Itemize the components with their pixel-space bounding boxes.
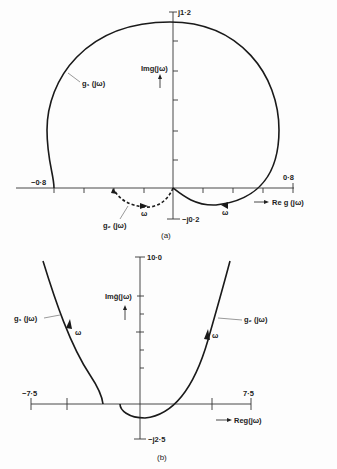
b-g1-label: g₁ (jω) [14, 314, 38, 323]
a-y-bottom-label: −j0·2 [182, 215, 199, 224]
b-x-axis-label: Reg(jω) [234, 416, 262, 425]
a-g1-curve [47, 22, 279, 205]
b-y-axis-label: Imĝ(jω) [105, 292, 132, 301]
b-g1-curve [43, 261, 103, 404]
nyquist-figure: j1·2 −j0·2 −0·8 0·8 Img(jω) Re g (jω) g₁… [0, 0, 337, 469]
a-g2-leader [120, 206, 128, 219]
b-x-right-label: 7·5 [243, 389, 254, 398]
a-y-top-label: j1·2 [177, 8, 191, 17]
a-g2-label: g₂ (jω) [103, 221, 127, 230]
b-g2-label: g₂ (jω) [244, 315, 268, 324]
a-x-left-label: −0·8 [31, 178, 46, 187]
b-g2-leader [218, 318, 242, 320]
a-omega-label-g1: ω [222, 208, 229, 217]
a-g1-leader [68, 73, 80, 82]
b-x-left-label: −7·5 [22, 389, 37, 398]
a-x-right-label: 0·8 [283, 173, 294, 182]
a-g2-curve [114, 188, 173, 207]
b-caption: (b) [157, 453, 167, 462]
a-x-axis-label: Re g (jω) [272, 198, 304, 207]
b-omega-label-g2: ω [212, 331, 219, 340]
a-g1-label: g₁ (jω) [82, 79, 106, 88]
b-omega-label-g1: ω [75, 328, 82, 337]
a-omega-label-g2: ω [141, 209, 148, 218]
figure-a: j1·2 −j0·2 −0·8 0·8 Img(jω) Re g (jω) g₁… [16, 8, 304, 240]
b-g1-leader [44, 315, 60, 318]
b-y-bottom-label: −j2·5 [148, 435, 165, 444]
a-caption: (a) [161, 231, 171, 240]
b-y-top-label: 10·0 [147, 253, 162, 262]
a-imag-ticks [173, 41, 178, 160]
a-y-axis-label: Img(jω) [141, 64, 168, 73]
figure-b: 10·0 −j2·5 −7·5 7·5 Imĝ(jω) Reg(jω) g₁ (… [14, 253, 268, 462]
b-omega-arrow-g1 [66, 319, 72, 329]
